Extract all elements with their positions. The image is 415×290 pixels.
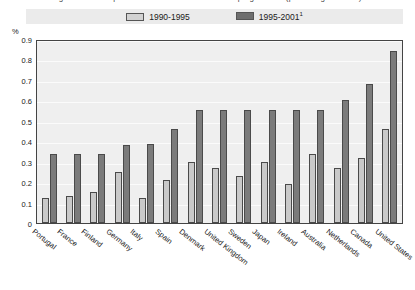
y-tick-label: 0.9 xyxy=(22,36,32,45)
x-tick-label: Australia xyxy=(300,227,329,252)
legend-label: 1995-20011 xyxy=(259,11,303,22)
bar xyxy=(98,154,105,224)
bar xyxy=(115,172,122,223)
y-tick-label: 0.3 xyxy=(22,158,32,167)
legend-swatch-icon xyxy=(126,13,144,21)
bar xyxy=(188,162,195,223)
y-tick-label: 0.1 xyxy=(22,199,32,208)
y-tick-label: 0.2 xyxy=(22,179,32,188)
y-tick-label: 0.4 xyxy=(22,138,32,147)
x-tick-label: Japan xyxy=(251,227,273,247)
bar xyxy=(293,110,300,223)
bar xyxy=(244,110,251,223)
x-tick-label: Ireland xyxy=(275,227,299,248)
bar-group xyxy=(236,41,251,223)
y-tick-label: 0 xyxy=(28,220,32,229)
bar-group xyxy=(115,41,130,223)
bar xyxy=(285,184,292,223)
bar xyxy=(90,192,97,223)
bar xyxy=(50,154,57,224)
bar-group xyxy=(66,41,81,223)
bar xyxy=(139,198,146,223)
bar-group xyxy=(358,41,373,223)
x-tick-label: United States xyxy=(373,227,414,262)
bar xyxy=(42,198,49,223)
bar-group xyxy=(261,41,276,223)
x-tick-label: Spain xyxy=(153,227,174,246)
chart-legend: 1990-19951995-20011 xyxy=(26,9,403,24)
bar-group xyxy=(188,41,203,223)
bar-group xyxy=(139,41,154,223)
page-title: Figure: Public expenditure on active lab… xyxy=(52,0,362,2)
plot-area xyxy=(36,40,403,224)
bar xyxy=(123,145,130,223)
y-axis: 0.90.80.70.60.50.40.30.20.10 xyxy=(0,36,36,228)
y-tick-label: 0.6 xyxy=(22,97,32,106)
bar xyxy=(309,154,316,224)
legend-item: 1990-1995 xyxy=(126,12,190,22)
chart-root: Figure: Public expenditure on active lab… xyxy=(0,0,415,290)
bar xyxy=(236,176,243,223)
x-tick-label: Italy xyxy=(129,227,145,243)
chart-title-strip: Figure: Public expenditure on active lab… xyxy=(0,0,415,7)
bar xyxy=(382,129,389,223)
legend-label: 1990-1995 xyxy=(149,12,190,22)
y-axis-unit: % xyxy=(12,27,19,36)
bar-group xyxy=(382,41,397,223)
bar xyxy=(317,110,324,223)
y-tick-label: 0.8 xyxy=(22,56,32,65)
bar xyxy=(342,100,349,223)
bar-group xyxy=(285,41,300,223)
bar xyxy=(269,110,276,223)
legend-swatch-icon xyxy=(236,12,254,20)
bar xyxy=(261,162,268,223)
legend-footnote-marker: 1 xyxy=(299,11,302,17)
bar xyxy=(74,154,81,224)
bar-group xyxy=(212,41,227,223)
bar-group xyxy=(42,41,57,223)
x-tick-label: Denmark xyxy=(177,227,207,253)
bar xyxy=(390,51,397,223)
bar-group xyxy=(309,41,324,223)
y-tick-label: 0.7 xyxy=(22,76,32,85)
bar-group xyxy=(334,41,349,223)
bar xyxy=(171,129,178,223)
bar-group xyxy=(90,41,105,223)
bar xyxy=(196,110,203,223)
bar xyxy=(334,168,341,223)
y-tick-label: 0.5 xyxy=(22,117,32,126)
bar xyxy=(220,110,227,223)
legend-item: 1995-20011 xyxy=(236,11,303,22)
bars-layer xyxy=(37,41,402,223)
bar xyxy=(163,180,170,223)
bar-group xyxy=(163,41,178,223)
bar xyxy=(66,196,73,223)
x-tick-label: France xyxy=(55,227,79,248)
bar xyxy=(147,144,154,223)
x-tick-label: Finland xyxy=(80,227,105,249)
bar xyxy=(366,84,373,223)
bar xyxy=(358,158,365,223)
bar xyxy=(212,168,219,223)
x-tick-label: Portugal xyxy=(31,227,59,251)
x-axis-labels: PortugalFranceFinlandGermanyItalySpainDe… xyxy=(36,225,403,289)
